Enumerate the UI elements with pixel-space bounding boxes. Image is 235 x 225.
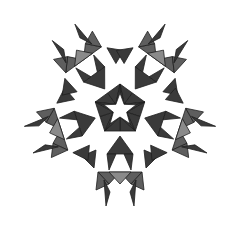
- snowflake-figure: [0, 0, 235, 225]
